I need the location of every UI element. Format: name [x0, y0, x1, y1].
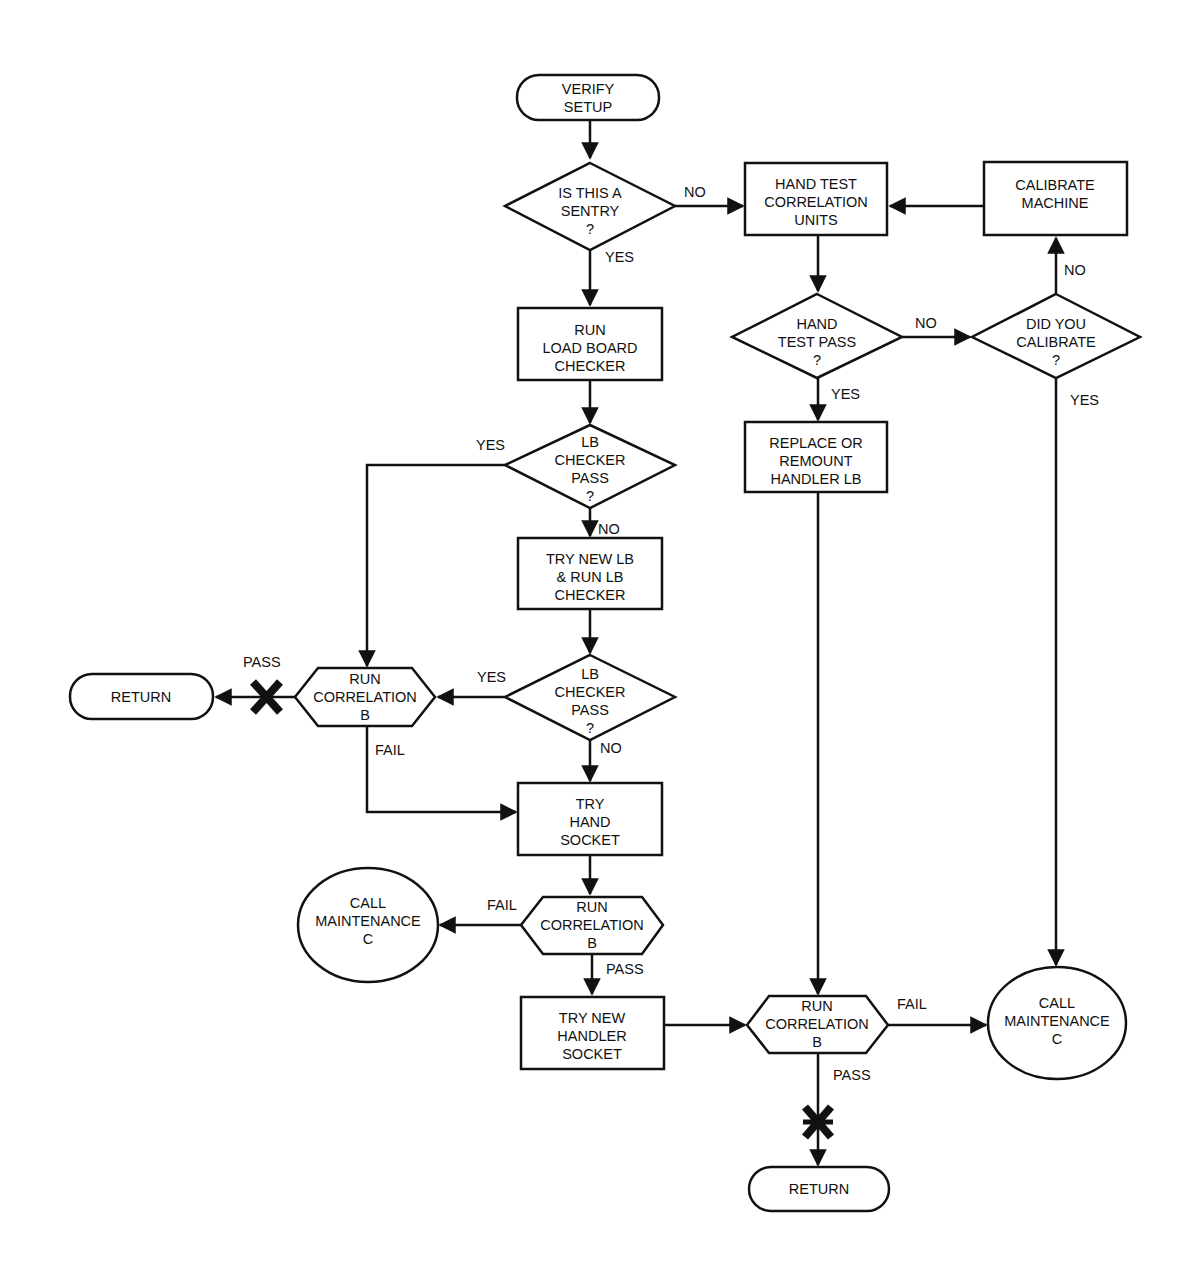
edge-corr1-fail [367, 726, 516, 812]
svg-text:SOCKET: SOCKET [560, 832, 620, 848]
svg-text:SENTRY: SENTRY [561, 203, 620, 219]
svg-text:MAINTENANCE: MAINTENANCE [315, 913, 421, 929]
svg-text:TRY NEW LB: TRY NEW LB [546, 551, 634, 567]
edge-label-handtest-no: NO [915, 315, 937, 331]
svg-text:RUN: RUN [349, 671, 380, 687]
edge-label-corr2-pass: PASS [606, 961, 644, 977]
node-run-correlation-3[interactable]: RUN CORRELATION B [747, 996, 888, 1053]
node-try-new-handler-socket[interactable]: TRY NEW HANDLER SOCKET [521, 997, 664, 1069]
svg-text:RUN: RUN [801, 998, 832, 1014]
svg-text:CALL: CALL [350, 895, 386, 911]
svg-text:MACHINE: MACHINE [1022, 195, 1089, 211]
svg-text:CORRELATION: CORRELATION [540, 917, 644, 933]
svg-text:?: ? [1052, 352, 1060, 368]
svg-text:PASS: PASS [571, 470, 609, 486]
edge-label-sentry-no: NO [684, 184, 706, 200]
node-run-lb-checker[interactable]: RUN LOAD BOARD CHECKER [518, 308, 662, 380]
svg-text:IS THIS A: IS THIS A [558, 185, 622, 201]
svg-text:B: B [812, 1034, 822, 1050]
edge-label-corr2-fail: FAIL [487, 897, 517, 913]
node-try-hand-socket[interactable]: TRY HAND SOCKET [518, 783, 662, 855]
svg-text:TRY: TRY [576, 796, 605, 812]
svg-text:REMOUNT: REMOUNT [779, 453, 852, 469]
node-run-correlation-2[interactable]: RUN CORRELATION B [521, 897, 663, 954]
svg-text:?: ? [586, 488, 594, 504]
edge-label-corr3-fail: FAIL [897, 996, 927, 1012]
edge-label-corr3-pass: PASS [833, 1067, 871, 1083]
svg-text:CALIBRATE: CALIBRATE [1016, 334, 1096, 350]
svg-text:RUN: RUN [576, 899, 607, 915]
edge-label-lb1-yes: YES [476, 437, 505, 453]
node-lb-checker-pass-2[interactable]: LB CHECKER PASS ? [505, 655, 675, 740]
svg-text:LB: LB [581, 666, 599, 682]
svg-text:B: B [587, 935, 597, 951]
svg-text:SOCKET: SOCKET [562, 1046, 622, 1062]
node-replace-remount[interactable]: REPLACE OR REMOUNT HANDLER LB [745, 422, 887, 492]
svg-text:?: ? [586, 221, 594, 237]
node-call-maintenance-left[interactable]: CALL MAINTENANCE C [298, 868, 438, 982]
svg-text:VERIFY: VERIFY [562, 81, 615, 97]
svg-text:REPLACE OR: REPLACE OR [769, 435, 862, 451]
edge-label-corr1-fail: FAIL [375, 742, 405, 758]
svg-text:PASS: PASS [571, 702, 609, 718]
svg-text:LOAD BOARD: LOAD BOARD [542, 340, 637, 356]
svg-text:?: ? [813, 352, 821, 368]
node-try-new-lb[interactable]: TRY NEW LB & RUN LB CHECKER [518, 538, 662, 609]
node-is-sentry[interactable]: IS THIS A SENTRY ? [505, 163, 675, 250]
svg-text:HANDLER: HANDLER [557, 1028, 626, 1044]
svg-text:UNITS: UNITS [794, 212, 838, 228]
edge-label-lb2-yes: YES [477, 669, 506, 685]
edge-label-lb2-no: NO [600, 740, 622, 756]
svg-text:CHECKER: CHECKER [555, 684, 626, 700]
node-hand-test-units[interactable]: HAND TEST CORRELATION UNITS [745, 163, 887, 235]
svg-text:RETURN: RETURN [111, 689, 171, 705]
svg-text:CORRELATION: CORRELATION [765, 1016, 869, 1032]
svg-text:B: B [360, 707, 370, 723]
edge-label-corr1-pass: PASS [243, 654, 281, 670]
node-hand-test-pass[interactable]: HAND TEST PASS ? [732, 294, 902, 378]
svg-text:HAND: HAND [796, 316, 837, 332]
svg-text:C: C [363, 931, 373, 947]
node-call-maintenance-right[interactable]: CALL MAINTENANCE C [988, 967, 1126, 1079]
svg-text:RUN: RUN [574, 322, 605, 338]
svg-text:CORRELATION: CORRELATION [313, 689, 417, 705]
svg-text:LB: LB [581, 434, 599, 450]
node-run-correlation-1[interactable]: RUN CORRELATION B [295, 668, 435, 726]
svg-text:TEST PASS: TEST PASS [778, 334, 856, 350]
svg-text:CORRELATION: CORRELATION [764, 194, 868, 210]
svg-text:MAINTENANCE: MAINTENANCE [1004, 1013, 1110, 1029]
svg-text:& RUN LB: & RUN LB [557, 569, 624, 585]
node-calibrate-machine[interactable]: CALIBRATE MACHINE [984, 162, 1127, 235]
svg-text:CHECKER: CHECKER [555, 452, 626, 468]
svg-text:C: C [1052, 1031, 1062, 1047]
edge-label-sentry-yes: YES [605, 249, 634, 265]
edge-label-lb1-no: NO [598, 521, 620, 537]
svg-text:CALL: CALL [1039, 995, 1075, 1011]
svg-text:CHECKER: CHECKER [555, 587, 626, 603]
node-lb-checker-pass-1[interactable]: LB CHECKER PASS ? [505, 425, 675, 508]
edge-lbpass1-yes [367, 465, 505, 666]
edge-label-calibrate-no: NO [1064, 262, 1086, 278]
svg-text:DID YOU: DID YOU [1026, 316, 1086, 332]
svg-text:SETUP: SETUP [564, 99, 612, 115]
svg-text:TRY NEW: TRY NEW [559, 1010, 626, 1026]
svg-text:CHECKER: CHECKER [555, 358, 626, 374]
node-return-bottom[interactable]: RETURN [749, 1167, 889, 1211]
svg-text:CALIBRATE: CALIBRATE [1015, 177, 1095, 193]
svg-text:RETURN: RETURN [789, 1181, 849, 1197]
svg-text:HAND TEST: HAND TEST [775, 176, 857, 192]
flowchart-canvas: NO YES NO YES NO YES YES NO YES NO PASS … [0, 0, 1196, 1274]
svg-text:HAND: HAND [569, 814, 610, 830]
node-verify-setup[interactable]: VERIFY SETUP [517, 75, 659, 120]
svg-text:?: ? [586, 720, 594, 736]
edge-label-handtest-yes: YES [831, 386, 860, 402]
edge-label-calibrate-yes: YES [1070, 392, 1099, 408]
node-return-left[interactable]: RETURN [70, 674, 213, 719]
node-did-you-calibrate[interactable]: DID YOU CALIBRATE ? [972, 294, 1140, 378]
svg-text:HANDLER LB: HANDLER LB [770, 471, 861, 487]
